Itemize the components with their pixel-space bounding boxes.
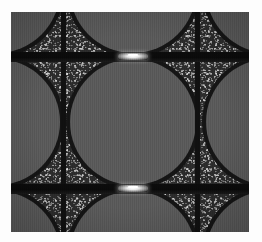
micrograph-frame [11,12,249,232]
image-viewport: Periodic particle lattice micrograph [0,0,262,242]
neck-upper [118,53,148,60]
particle-center [70,59,196,185]
grain-boundary-vertical-right [195,12,200,232]
grain-boundary-vertical-left [61,12,66,232]
neck-lower [118,185,148,192]
